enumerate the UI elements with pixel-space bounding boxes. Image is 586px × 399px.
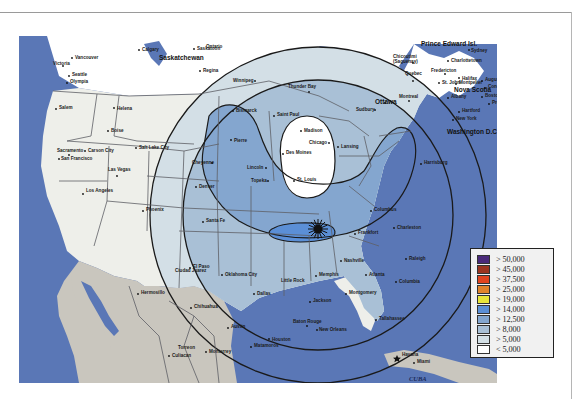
- label-new-orleans: New Orleans: [319, 327, 347, 332]
- legend-item: > 8,000: [477, 325, 549, 335]
- label-thunder-bay: Thunder Bay: [288, 84, 317, 89]
- label-frankfort: Frankfort: [358, 230, 379, 235]
- label-bismarck: Bismarck: [236, 108, 257, 113]
- label-las-vegas: Las Vegas: [108, 167, 131, 172]
- label-helena: Helena: [117, 106, 133, 111]
- label-concord: Concord: [488, 84, 497, 89]
- legend-item: > 19,000: [477, 294, 549, 304]
- label-monterrey: Monterrey: [209, 349, 232, 354]
- legend-item: < 5,000: [477, 345, 549, 355]
- label-culiacan: Culiacan: [172, 353, 191, 358]
- legend-swatch: [477, 295, 490, 304]
- legend-swatch: [477, 305, 490, 314]
- label-baton-rouge: Baton Rouge: [293, 319, 322, 324]
- label-saguenay: (Saguenay): [393, 59, 418, 64]
- label-miami: Miami: [417, 359, 430, 364]
- label-raleigh: Raleigh: [409, 256, 426, 261]
- label-boise: Boise: [111, 128, 124, 133]
- label-salem: Salem: [59, 105, 73, 110]
- label-little-rock: Little Rock: [281, 278, 305, 283]
- label-columbus: Columbus: [374, 207, 397, 212]
- label-victoria: Victoria: [53, 61, 70, 66]
- label-memphis: Memphis: [319, 272, 339, 277]
- label-des-moines: Des Moines: [286, 150, 312, 155]
- label-st-john: St. John: [442, 80, 460, 85]
- label-fredericton: Fredericton: [431, 68, 456, 73]
- label-olympia: Olympia: [70, 79, 89, 84]
- label-harrisburg: Harrisburg: [424, 160, 448, 165]
- legend-swatch: [477, 315, 490, 324]
- label-saint-paul: Saint Paul: [277, 112, 299, 117]
- label-seattle: Seattle: [72, 72, 88, 77]
- map: Saskatchewan Ontario Prince Edward Isl. …: [19, 36, 497, 383]
- label-denver: Denver: [199, 184, 215, 189]
- top-rule: [0, 12, 572, 13]
- label-jackson: Jackson: [313, 298, 332, 303]
- label-montgomery: Montgomery: [349, 290, 377, 295]
- label-oklahoma-city: Oklahoma City: [225, 272, 258, 277]
- label-columbia: Columbia: [399, 279, 420, 284]
- legend-label: > 5,000: [496, 335, 520, 344]
- label-madison: Madison: [304, 128, 323, 133]
- label-phoenix: Phoenix: [146, 207, 164, 212]
- right-rule: [571, 12, 572, 399]
- legend-label: > 25,000: [496, 285, 524, 294]
- label-montpelier: Montpelier: [459, 80, 482, 85]
- legend-label: > 19,000: [496, 295, 524, 304]
- legend-swatch: [477, 265, 490, 274]
- legend-swatch: [477, 285, 490, 294]
- label-boston: Boston: [485, 93, 497, 98]
- label-charlottetown: Charlottetown: [451, 58, 482, 63]
- legend-item: > 14,000: [477, 304, 549, 314]
- legend-item: > 25,000: [477, 284, 549, 294]
- label-los-angeles: Los Angeles: [86, 188, 114, 193]
- epicenter-starburst-icon: [308, 219, 328, 239]
- label-calgary: Calgary: [142, 47, 159, 52]
- label-pierre: Pierre: [234, 138, 247, 143]
- label-pei: Prince Edward Isl.: [421, 40, 477, 47]
- legend-label: < 5,000: [496, 345, 520, 354]
- legend-item: > 12,500: [477, 315, 549, 325]
- legend-swatch: [477, 335, 490, 344]
- label-salt-lake-city: Salt Lake City: [139, 145, 170, 150]
- label-chicago: Chicago: [309, 140, 327, 145]
- label-ciudad-juarez: Ciudad Juarez: [175, 268, 207, 273]
- label-nashville: Nashville: [344, 258, 365, 263]
- label-new-york: New York: [456, 116, 477, 121]
- label-havana: Havana: [402, 352, 419, 357]
- label-sudbury: Sudbury: [356, 107, 375, 112]
- label-atlanta: Atlanta: [369, 272, 385, 277]
- label-austin: Austin: [231, 324, 245, 329]
- label-lansing: Lansing: [341, 144, 359, 149]
- label-washington-dc: Washington D.C.: [447, 128, 497, 136]
- label-saskatoon: Saskatoon: [197, 46, 220, 51]
- label-quebec: Quebec: [405, 71, 422, 76]
- legend-label: > 14,000: [496, 305, 524, 314]
- label-winnipeg: Winnipeg: [233, 78, 254, 83]
- label-hartford: Hartford: [462, 108, 480, 113]
- label-houston: Houston: [272, 337, 291, 342]
- label-sydney: Sydney: [471, 48, 488, 53]
- legend: > 50,000 > 45,000 > 37,500 > 25,000 > 19…: [470, 248, 554, 358]
- legend-label: > 45,000: [496, 265, 524, 274]
- label-saskatchewan: Saskatchewan: [159, 54, 204, 61]
- legend-item: > 5,000: [477, 335, 549, 345]
- label-providence: Providence: [492, 100, 497, 105]
- label-chihuahua: Chihuahua: [194, 304, 218, 309]
- legend-swatch: [477, 325, 490, 334]
- label-nova-scotia: Nova Scotia: [454, 86, 492, 93]
- map-canvas: Saskatchewan Ontario Prince Edward Isl. …: [19, 36, 497, 383]
- label-vancouver: Vancouver: [75, 55, 98, 60]
- legend-item: > 50,000: [477, 254, 549, 264]
- legend-swatch: [477, 275, 490, 284]
- label-lincoln: Lincoln: [247, 165, 264, 170]
- label-charleston: Charleston: [397, 225, 421, 230]
- legend-label: > 37,500: [496, 275, 524, 284]
- label-tallahassee: Tallahassee: [379, 316, 405, 321]
- label-matamoros: Matamoros: [254, 343, 279, 348]
- label-hermosillo: Hermosillo: [141, 290, 165, 295]
- legend-label: > 8,000: [496, 325, 520, 334]
- label-santa-fe: Santa Fe: [206, 218, 226, 223]
- legend-swatch: [477, 345, 490, 354]
- label-torreon: Torreon: [178, 345, 195, 350]
